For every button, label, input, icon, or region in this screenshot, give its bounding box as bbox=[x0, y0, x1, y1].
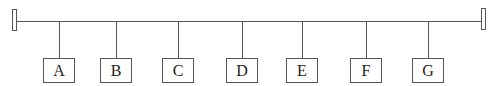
right-terminator bbox=[481, 8, 486, 30]
left-terminator bbox=[12, 9, 17, 31]
node-g: G bbox=[412, 58, 444, 83]
node-d: D bbox=[226, 58, 258, 83]
node-f: F bbox=[350, 58, 382, 83]
drop-line-b bbox=[116, 21, 117, 58]
drop-line-f bbox=[366, 21, 367, 58]
drop-line-g bbox=[428, 21, 429, 58]
drop-line-a bbox=[59, 21, 60, 58]
drop-line-c bbox=[178, 21, 179, 58]
node-b: B bbox=[100, 58, 132, 83]
drop-line-d bbox=[242, 21, 243, 58]
node-a: A bbox=[43, 58, 75, 83]
node-c: C bbox=[162, 58, 194, 83]
bus-line bbox=[17, 21, 481, 22]
bus-topology-diagram: A B C D E F G bbox=[0, 0, 498, 86]
drop-line-e bbox=[302, 21, 303, 58]
node-e: E bbox=[286, 58, 318, 83]
